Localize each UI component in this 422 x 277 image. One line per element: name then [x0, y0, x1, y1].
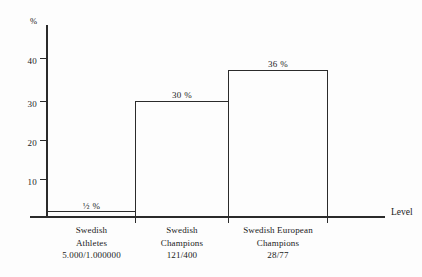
category-label-swedish-european-champions: Swedish European Champions 28/77 [226, 224, 330, 262]
y-tick-label-10: 10 [28, 177, 37, 187]
y-tick-label-40: 40 [28, 56, 37, 66]
bar-swedish-champions: 30 % [135, 101, 229, 217]
category-label-1-line-2: Athletes [47, 237, 136, 250]
category-label-3-line-2: Champions [226, 237, 330, 250]
bar-swedish-european-champions: 36 % [228, 70, 328, 217]
y-tick-40: 40 [40, 58, 48, 59]
y-tick-30: 30 [40, 101, 48, 102]
y-axis-unit-label: % [30, 16, 37, 26]
bar-value-label-2: 30 % [172, 90, 192, 100]
x-axis-label: Level [391, 207, 413, 217]
x-tick-boundary-1 [135, 216, 136, 223]
bar-value-label-1: ½ % [83, 201, 100, 211]
bar-swedish-athletes: ½ % [47, 211, 136, 217]
y-axis-line [46, 25, 48, 218]
bar-chart: % 10 20 30 40 Level ½ % 30 % 36 % Swedis… [0, 0, 422, 277]
category-ratio-1: 5.000/1.000000 [47, 249, 136, 262]
y-tick-20: 20 [40, 140, 48, 141]
category-label-swedish-champions: Swedish Champions 121/400 [135, 224, 229, 262]
category-label-3-line-1: Swedish European [226, 224, 330, 237]
bar-value-label-3: 36 % [268, 59, 288, 69]
y-tick-10: 10 [40, 179, 48, 180]
y-tick-label-20: 20 [28, 138, 37, 148]
category-label-2-line-1: Swedish [135, 224, 229, 237]
category-ratio-3: 28/77 [226, 249, 330, 262]
category-label-1-line-1: Swedish [47, 224, 136, 237]
category-label-2-line-2: Champions [135, 237, 229, 250]
y-tick-label-30: 30 [28, 99, 37, 109]
category-ratio-2: 121/400 [135, 249, 229, 262]
x-tick-boundary-3 [327, 216, 328, 223]
x-tick-boundary-2 [228, 216, 229, 223]
category-label-swedish-athletes: Swedish Athletes 5.000/1.000000 [47, 224, 136, 262]
